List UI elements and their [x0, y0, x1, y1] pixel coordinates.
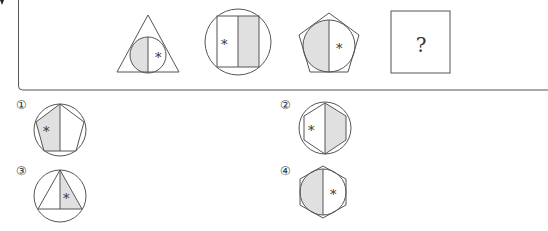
star-mark: *: [336, 41, 343, 56]
shaded-half: [238, 16, 259, 67]
option-label: ③: [16, 164, 27, 178]
option-1[interactable]: ① *: [16, 98, 86, 156]
sequence-figure-1: *: [117, 15, 179, 73]
star-mark: *: [155, 50, 162, 65]
option-label: ④: [280, 164, 291, 178]
star-mark: *: [43, 124, 50, 139]
shaded-half: [300, 169, 323, 215]
star-mark: *: [308, 123, 315, 138]
star-mark: *: [63, 191, 70, 206]
option-2[interactable]: ② *: [280, 98, 351, 154]
sequence-figure-unknown: ?: [391, 11, 450, 73]
question-frame: [19, 0, 548, 90]
option-label: ②: [280, 98, 291, 112]
shaded-half: [303, 20, 329, 72]
sequence-figure-3: *: [299, 13, 359, 72]
option-4[interactable]: ④ *: [280, 164, 346, 218]
corner-mark: [0, 0, 4, 5]
sequence-figure-2: *: [205, 9, 271, 75]
star-mark: *: [330, 187, 337, 202]
option-label: ①: [16, 98, 27, 112]
star-mark: *: [221, 37, 228, 52]
option-3[interactable]: ③ *: [16, 164, 86, 222]
puzzle-canvas: * * * ? ① * ③ * ②: [0, 0, 548, 231]
question-mark: ?: [416, 33, 427, 57]
